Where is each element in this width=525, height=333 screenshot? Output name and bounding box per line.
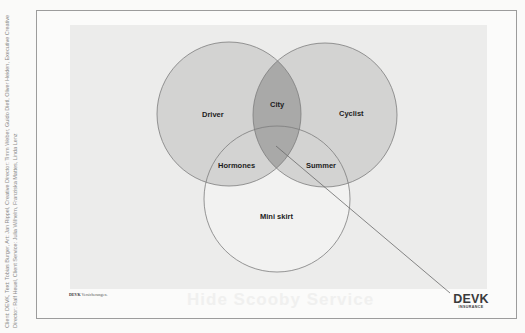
label-driver: Driver xyxy=(202,110,224,119)
venn-diagram: Driver Cyclist Mini skirt City Hormones … xyxy=(0,0,525,333)
label-mini-skirt: Mini skirt xyxy=(260,212,293,221)
label-hormones: Hormones xyxy=(218,161,255,170)
label-summer: Summer xyxy=(306,161,336,170)
label-cyclist: Cyclist xyxy=(339,109,364,118)
label-city: City xyxy=(270,100,285,109)
